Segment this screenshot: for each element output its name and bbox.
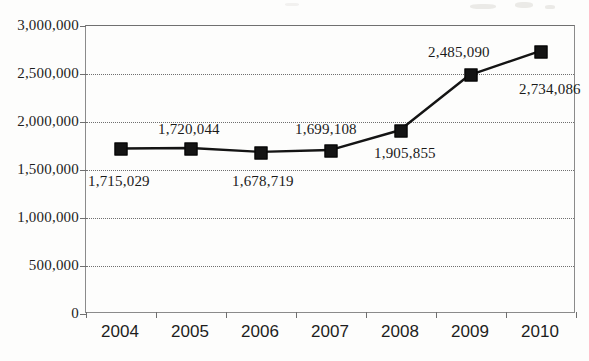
- value-label-2008: 1,905,855: [374, 145, 436, 162]
- y-axis-label: 3,000,000: [17, 17, 79, 34]
- value-label-2010: 2,734,086: [519, 81, 581, 98]
- y-axis-label: 0: [71, 305, 79, 322]
- data-point-2004[interactable]: [115, 143, 128, 156]
- series-line: [86, 26, 574, 312]
- scan-artifact: [285, 3, 299, 6]
- scan-artifact: [470, 4, 496, 9]
- data-point-2008[interactable]: [395, 125, 408, 138]
- value-label-2006: 1,678,719: [232, 173, 294, 190]
- x-axis-tick: [156, 312, 157, 318]
- data-point-2010[interactable]: [535, 45, 548, 58]
- x-axis-label-2005: 2005: [171, 322, 209, 342]
- y-axis-label: 1,000,000: [17, 209, 79, 226]
- x-axis-tick: [436, 312, 437, 318]
- scan-artifact: [545, 5, 555, 9]
- plot-area: [85, 25, 575, 313]
- x-axis-tick: [366, 312, 367, 318]
- y-axis-label: 2,000,000: [17, 113, 79, 130]
- x-axis-label-2008: 2008: [381, 322, 419, 342]
- x-axis-labels: 2004200520062007200820092010: [85, 322, 575, 352]
- line-chart: 0500,0001,000,0001,500,0002,000,0002,500…: [0, 0, 589, 361]
- y-axis-label: 500,000: [29, 257, 79, 274]
- x-axis-label-2009: 2009: [451, 322, 489, 342]
- value-label-2007: 1,699,108: [295, 121, 357, 138]
- y-axis-label: 2,500,000: [17, 65, 79, 82]
- data-point-2009[interactable]: [465, 69, 478, 82]
- value-label-2009: 2,485,090: [428, 44, 490, 61]
- y-axis-labels: 0500,0001,000,0001,500,0002,000,0002,500…: [0, 25, 79, 313]
- x-axis-label-2007: 2007: [311, 322, 349, 342]
- value-label-2005: 1,720,044: [158, 121, 220, 138]
- data-point-2005[interactable]: [185, 142, 198, 155]
- y-axis-label: 1,500,000: [17, 161, 79, 178]
- x-axis-label-2004: 2004: [101, 322, 139, 342]
- x-axis-tick: [86, 312, 87, 318]
- data-point-2007[interactable]: [325, 144, 338, 157]
- x-axis-label-2006: 2006: [241, 322, 279, 342]
- value-label-2004: 1,715,029: [88, 173, 150, 190]
- x-axis-label-2010: 2010: [521, 322, 559, 342]
- data-point-2006[interactable]: [255, 146, 268, 159]
- x-axis-tick: [226, 312, 227, 318]
- x-axis-tick: [296, 312, 297, 318]
- scan-artifact: [515, 2, 533, 8]
- x-axis-tick: [506, 312, 507, 318]
- x-axis-tick: [576, 312, 577, 318]
